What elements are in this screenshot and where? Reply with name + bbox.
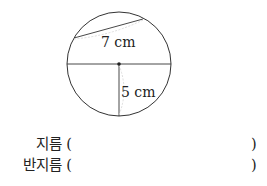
diameter-answer-row: 지름 ( ) — [0, 134, 267, 154]
chord-label: 7 cm — [101, 34, 135, 50]
circle-diagram: 7 cm 5 cm — [0, 0, 267, 130]
center-point — [117, 62, 121, 66]
radius-answer-row: 반지름 ( ) — [0, 155, 267, 175]
radius-label: 5 cm — [121, 84, 155, 100]
radius-close-paren: ) — [251, 155, 257, 175]
diameter-close-paren: ) — [251, 134, 257, 154]
diameter-label: 지름 ( — [36, 134, 72, 154]
radius-answer-label: 반지름 ( — [23, 155, 72, 175]
